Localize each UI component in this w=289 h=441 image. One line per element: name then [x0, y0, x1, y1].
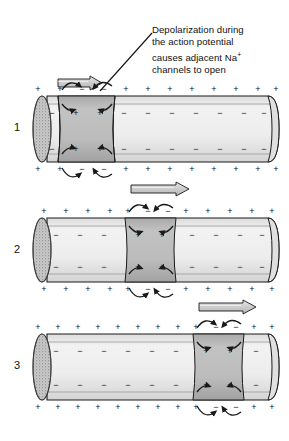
panel-number-1: 1	[14, 121, 20, 133]
svg-text:−: −	[241, 108, 246, 118]
svg-text:+: +	[85, 284, 90, 294]
svg-text:+: +	[115, 402, 120, 412]
svg-text:−: −	[217, 108, 222, 118]
svg-text:−: −	[259, 230, 264, 240]
svg-text:+: +	[63, 284, 68, 294]
svg-text:+: +	[269, 284, 274, 294]
svg-text:−: −	[165, 206, 170, 216]
svg-text:+: +	[167, 164, 172, 174]
svg-text:−: −	[77, 262, 82, 272]
svg-text:−: −	[53, 380, 58, 390]
svg-text:+: +	[41, 206, 46, 216]
propagation-arrow-3	[199, 300, 256, 314]
svg-text:−: −	[79, 164, 84, 174]
svg-text:+: +	[211, 84, 216, 94]
svg-text:−: −	[217, 144, 222, 154]
svg-text:+: +	[95, 322, 100, 332]
svg-text:−: −	[253, 380, 258, 390]
svg-text:+: +	[175, 322, 180, 332]
svg-text:−: −	[77, 230, 82, 240]
figure-caption: Depolarization during the action potenti…	[152, 24, 284, 76]
svg-text:−: −	[53, 346, 58, 356]
svg-text:+: +	[269, 322, 274, 332]
svg-text:+: +	[107, 206, 112, 216]
svg-text:+: +	[249, 206, 254, 216]
svg-text:−: −	[101, 380, 106, 390]
sodium-superscript: +	[237, 51, 241, 58]
svg-text:+: +	[233, 84, 238, 94]
svg-text:+: +	[255, 84, 260, 94]
svg-text:−: −	[77, 380, 82, 390]
svg-text:+: +	[115, 322, 120, 332]
svg-text:+: +	[135, 402, 140, 412]
svg-text:+: +	[227, 284, 232, 294]
svg-text:−: −	[49, 108, 54, 118]
svg-text:+: +	[55, 322, 60, 332]
svg-text:+: +	[63, 206, 68, 216]
svg-text:+: +	[145, 164, 150, 174]
axon-cut-end-3	[33, 334, 51, 400]
svg-text:−: −	[213, 262, 218, 272]
svg-text:−: −	[125, 346, 130, 356]
svg-text:+: +	[269, 402, 274, 412]
svg-text:+: +	[123, 164, 128, 174]
caption-line-4: channels to open	[152, 64, 284, 76]
svg-text:+: +	[159, 230, 164, 240]
svg-text:−: −	[193, 108, 198, 118]
svg-text:+: +	[107, 284, 112, 294]
svg-text:+: +	[189, 164, 194, 174]
svg-text:+: +	[227, 206, 232, 216]
svg-text:+: +	[205, 284, 210, 294]
svg-text:+: +	[205, 206, 210, 216]
svg-text:−: −	[253, 346, 258, 356]
svg-text:+: +	[75, 322, 80, 332]
svg-text:+: +	[175, 402, 180, 412]
svg-text:+: +	[167, 84, 172, 94]
svg-text:−: −	[145, 108, 150, 118]
svg-text:+: +	[273, 164, 278, 174]
svg-text:+: +	[35, 84, 40, 94]
outer-charges-bottom-2: ++ ++ +− −+ ++ ++	[41, 284, 274, 294]
svg-text:+: +	[155, 322, 160, 332]
caption-line-2: the action potential	[152, 36, 284, 48]
svg-text:+: +	[35, 402, 40, 412]
svg-text:−: −	[233, 322, 238, 332]
propagation-arrow-2	[131, 182, 189, 196]
svg-text:−: −	[169, 108, 174, 118]
svg-text:+: +	[57, 84, 62, 94]
svg-text:+: +	[251, 322, 256, 332]
axon-cut-end-2	[33, 218, 51, 282]
axon-cut-end-1	[33, 96, 51, 162]
svg-text:−: −	[101, 346, 106, 356]
svg-text:+: +	[233, 164, 238, 174]
svg-text:−: −	[233, 402, 238, 412]
svg-text:+: +	[189, 84, 194, 94]
svg-text:−: −	[165, 284, 170, 294]
svg-text:+: +	[269, 206, 274, 216]
svg-text:−: −	[213, 230, 218, 240]
svg-text:+: +	[97, 144, 102, 154]
panel-1: ++ −− ++ ++ ++ ++ ++ −− ++ ++ ++ ++ − ++…	[33, 76, 279, 177]
svg-text:−: −	[101, 164, 106, 174]
svg-text:−: −	[101, 262, 106, 272]
svg-text:−: −	[261, 108, 266, 118]
svg-text:+: +	[135, 322, 140, 332]
svg-text:+: +	[273, 84, 278, 94]
caption-pointer-line	[100, 33, 152, 91]
outer-charges-bottom-3: ++ ++ ++ ++ +− −+ +	[35, 402, 274, 412]
svg-text:+: +	[55, 402, 60, 412]
svg-text:−: −	[169, 144, 174, 154]
svg-text:+: +	[183, 284, 188, 294]
svg-text:+: +	[41, 284, 46, 294]
axon-tube-3	[47, 334, 279, 400]
svg-text:+: +	[95, 402, 100, 412]
svg-text:−: −	[53, 230, 58, 240]
svg-text:+: +	[97, 108, 102, 118]
panel-number-2: 2	[14, 243, 20, 255]
svg-text:−: −	[125, 380, 130, 390]
caption-line-3-text: causes adjacent Na	[152, 52, 237, 63]
svg-text:+: +	[73, 144, 78, 154]
outer-charges-bottom-1: ++ −− ++ ++ ++ ++	[35, 164, 278, 174]
caption-line-3: causes adjacent Na+	[152, 49, 284, 64]
svg-text:−: −	[53, 262, 58, 272]
